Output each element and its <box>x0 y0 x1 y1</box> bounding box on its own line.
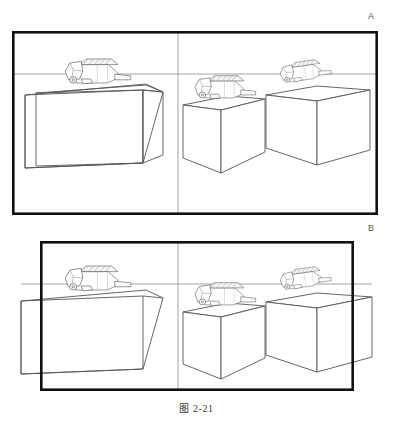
middle-box-b <box>183 303 265 379</box>
panel-a: A <box>0 0 393 220</box>
left-box-a <box>25 84 163 168</box>
vehicle-on-left-box-b <box>65 266 131 291</box>
vehicle-on-middle-box-b <box>195 283 256 306</box>
panel-a-scene <box>0 0 393 220</box>
right-box-b <box>266 293 372 372</box>
panel-b-scene <box>0 220 393 400</box>
figure-caption: 图 2-21 <box>0 400 393 415</box>
figure-2-21: A <box>0 0 393 421</box>
panel-b: B <box>0 220 393 400</box>
right-box-a <box>266 86 370 165</box>
vehicle-on-right-box-b <box>279 265 332 291</box>
